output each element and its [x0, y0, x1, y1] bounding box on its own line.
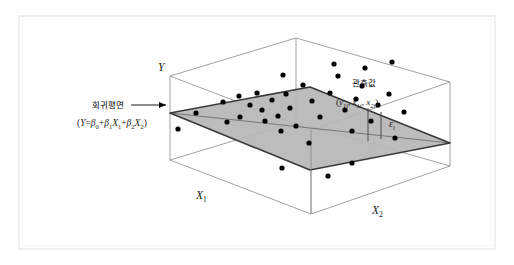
scatter-point-19 — [306, 140, 311, 145]
plane-label-arrow — [131, 102, 166, 108]
figure-root: Y X1 X2 회귀평면 (Y=β0+β1X1+β2X2) 관측값 (y1i, … — [0, 0, 514, 265]
scatter-point-34 — [362, 65, 367, 70]
pt-close-paren: ) — [375, 97, 378, 107]
scatter-point-30 — [349, 160, 354, 165]
scatter-point-11 — [278, 128, 283, 133]
scatter-point-29 — [392, 135, 397, 140]
scatter-point-28 — [386, 91, 391, 96]
regression-plane-label: 회귀평면 — [92, 101, 124, 110]
scatter-point-14 — [293, 123, 298, 128]
regression-plane-diagram — [0, 0, 514, 265]
scatter-point-31 — [325, 173, 330, 178]
scatter-point-17 — [309, 98, 314, 103]
axis-label-y: Y — [158, 62, 164, 74]
observed-point-coordinates: (y1i, x1i, x2i) — [336, 98, 378, 109]
scatter-point-13 — [287, 105, 292, 110]
scatter-point-20 — [327, 90, 332, 95]
scatter-point-2 — [224, 119, 229, 124]
scatter-point-23 — [349, 128, 354, 133]
axis-label-x1-sub: 1 — [203, 195, 207, 204]
observed-value-label: 관측값 — [352, 79, 376, 88]
scatter-point-18 — [317, 114, 322, 119]
scatter-point-12 — [283, 91, 288, 96]
residual-epsilon-sub: i — [393, 124, 395, 132]
axis-label-x2-base: X — [372, 204, 379, 216]
scatter-point-21 — [335, 73, 340, 78]
scatter-point-9 — [269, 97, 274, 102]
axis-label-x1-base: X — [196, 189, 203, 201]
scatter-point-37 — [401, 109, 406, 114]
scatter-point-26 — [368, 118, 373, 123]
scatter-point-7 — [259, 107, 264, 112]
scatter-point-1 — [220, 99, 225, 104]
scatter-point-10 — [275, 113, 280, 118]
scatter-point-3 — [236, 93, 241, 98]
axis-label-x1: X1 — [196, 190, 207, 204]
scatter-point-15 — [280, 72, 285, 77]
scatter-point-5 — [247, 102, 252, 107]
scatter-point-33 — [175, 126, 180, 131]
scatter-point-36 — [331, 61, 336, 66]
axis-label-x2-sub: 2 — [379, 210, 383, 219]
plane-label-arrow-head — [159, 102, 166, 108]
scatter-point-35 — [389, 59, 394, 64]
scatter-point-8 — [262, 118, 267, 123]
regression-plane-equation: (Y=β0+β1X1+β2X2) — [77, 119, 147, 130]
scatter-point-4 — [237, 114, 242, 119]
scatter-point-16 — [300, 82, 305, 87]
residual-label: εi — [389, 119, 395, 132]
scatter-point-32 — [279, 165, 284, 170]
scatter-point-6 — [254, 90, 259, 95]
scatter-point-0 — [193, 110, 198, 115]
axis-label-x2: X2 — [372, 205, 383, 219]
eq-close-paren: ) — [144, 118, 147, 128]
